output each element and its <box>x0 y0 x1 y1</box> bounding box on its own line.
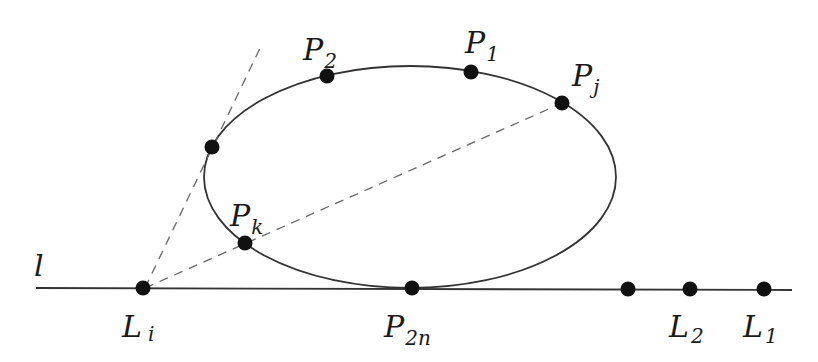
point-Pj <box>555 96 570 111</box>
points <box>136 65 772 297</box>
label-P2: P2 <box>302 32 337 73</box>
label-Li: Li <box>121 309 154 346</box>
label-P1: P1 <box>464 25 499 66</box>
label-L1: L1 <box>742 309 778 348</box>
dashed-tangent-line <box>145 44 262 288</box>
label-line-l: l <box>34 248 44 283</box>
point-L1 <box>757 282 772 297</box>
point-tangent <box>205 140 220 155</box>
label-L2: L2 <box>668 309 704 348</box>
point-Li <box>136 281 151 296</box>
point-P1 <box>464 65 479 80</box>
label-Pj: Pj <box>571 58 599 99</box>
point-unlabeled <box>621 282 636 297</box>
point-L2 <box>683 282 698 297</box>
ellipse-curve <box>204 66 616 288</box>
label-P2n: P2n <box>383 309 431 350</box>
point-P2n <box>405 281 420 296</box>
diagram-canvas: l P2 P1 Pj Pk Li P2n L2 L1 <box>0 0 818 362</box>
label-Pk: Pk <box>229 198 263 239</box>
